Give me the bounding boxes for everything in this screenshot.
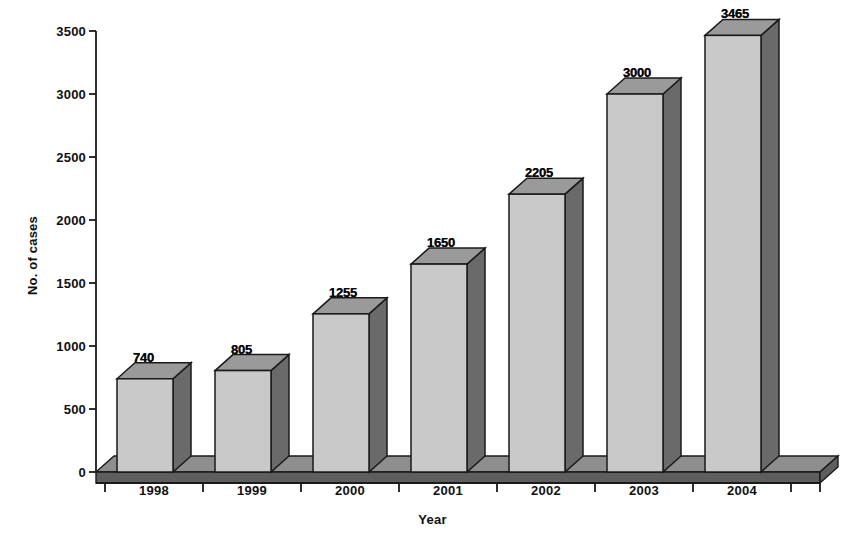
x-tick-label: 2002 [501, 483, 591, 498]
bar-chart: No. of cases 0 500 1000 1500 2000 2500 3… [0, 0, 865, 553]
x-tick-label: 2004 [697, 483, 787, 498]
bar-value-label: 740 [133, 350, 154, 365]
x-tick-label: 2003 [599, 483, 689, 498]
x-tick-label: 2001 [403, 483, 493, 498]
bar-value-label: 1650 [427, 235, 455, 250]
x-tick-label: 1998 [109, 483, 199, 498]
bar-value-label: 2205 [525, 165, 553, 180]
plot-area [0, 0, 865, 553]
x-axis-title: Year [0, 512, 865, 527]
x-tick-label: 1999 [207, 483, 297, 498]
bar-value-label: 3465 [721, 6, 749, 21]
bar-value-label: 1255 [329, 285, 357, 300]
x-tick-label: 2000 [305, 483, 395, 498]
bar-value-label: 805 [231, 342, 252, 357]
bar-value-label: 3000 [623, 65, 651, 80]
